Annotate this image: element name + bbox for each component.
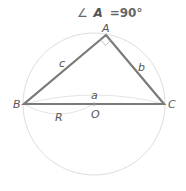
angle-vertex: A [93,6,103,20]
side-label-c: c [59,57,65,70]
angle-value: =90° [110,6,143,20]
radius-label-r: R [55,111,63,124]
center-label-o: O [91,108,100,121]
circumcircle-diagram: ∠ A =90° A B C O c b a R [0,0,186,191]
angle-title: ∠ A =90° [77,6,142,20]
vertex-label-b: B [13,98,21,111]
angle-symbol: ∠ [77,6,88,20]
vertex-label-a: A [101,22,110,35]
diagram-canvas: ∠ A =90° A B C O c b a R [0,0,186,191]
vertex-label-c: C [168,98,176,111]
side-label-a: a [91,89,98,102]
right-angle-marker [101,40,111,46]
side-label-b: b [138,61,145,74]
center-point-o [92,102,95,105]
